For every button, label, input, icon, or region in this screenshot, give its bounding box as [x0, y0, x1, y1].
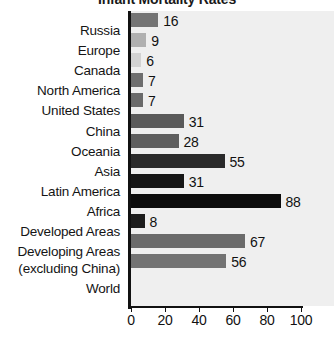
x-axis-tick-label: 80 — [260, 312, 275, 328]
bar-value-label: 56 — [231, 255, 246, 269]
bar-value-label: 28 — [184, 135, 199, 149]
bar — [131, 214, 145, 228]
bar-value-label: 9 — [151, 34, 159, 48]
category-label: Developed Areas — [20, 225, 120, 238]
bar-value-label: 31 — [189, 175, 204, 189]
bar-value-label: 55 — [230, 155, 245, 169]
x-axis-tick-label: 0 — [127, 312, 135, 328]
bar-value-label: 16 — [163, 14, 178, 28]
category-label: (excluding China) — [18, 262, 120, 275]
category-label: Latin America — [41, 185, 120, 198]
bar — [131, 33, 146, 47]
infant-mortality-bar-chart: Infant Mortality Rates RussiaEuropeCanad… — [0, 0, 334, 341]
category-label: United States — [42, 104, 120, 117]
category-label: World — [86, 282, 120, 295]
bar — [131, 254, 226, 268]
bar-value-label: 88 — [286, 195, 301, 209]
category-label: Russia — [80, 24, 120, 37]
category-label: Europe — [78, 44, 120, 57]
bar-value-label: 6 — [146, 54, 154, 68]
bar-value-label: 67 — [250, 235, 265, 249]
bar — [131, 134, 179, 148]
bar — [131, 73, 143, 87]
category-label: Canada — [74, 64, 120, 77]
category-label: Oceania — [71, 145, 120, 158]
category-label: North America — [37, 84, 120, 97]
bar — [131, 93, 143, 107]
x-axis-line — [128, 306, 303, 308]
bar — [131, 114, 184, 128]
bar — [131, 13, 158, 27]
bar — [131, 194, 281, 208]
bar — [131, 154, 225, 168]
bar — [131, 234, 245, 248]
category-label: Asia — [95, 165, 120, 178]
category-label: Developing Areas — [17, 245, 120, 258]
x-axis-tick-label: 100 — [290, 312, 312, 328]
x-axis-tick-label: 40 — [192, 312, 207, 328]
x-axis-tick-label: 60 — [226, 312, 241, 328]
bar-value-label: 31 — [189, 115, 204, 129]
chart-title: Infant Mortality Rates — [0, 0, 334, 7]
category-label: China — [86, 125, 120, 138]
bar-value-label: 7 — [148, 74, 156, 88]
bar — [131, 53, 141, 67]
bar — [131, 174, 184, 188]
category-label: Africa — [87, 205, 120, 218]
bar-value-label: 7 — [148, 94, 156, 108]
x-axis-tick-label: 20 — [158, 312, 173, 328]
bar-value-label: 8 — [150, 215, 158, 229]
